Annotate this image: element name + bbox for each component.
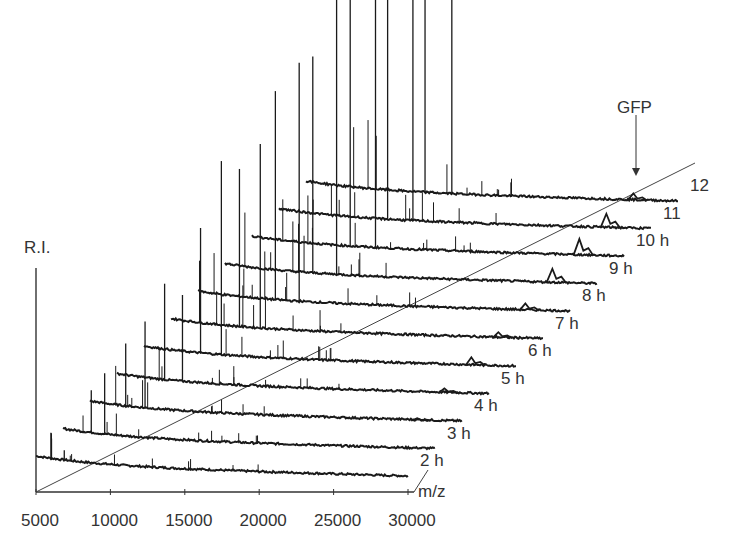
spectrum-trace xyxy=(117,373,489,395)
spectrum-traces xyxy=(36,0,678,477)
x-tick-label: 25000 xyxy=(314,511,361,531)
x-tick-label: 20000 xyxy=(240,511,287,531)
x-axis-label: m/z xyxy=(418,482,445,502)
spectrum-trace xyxy=(171,318,543,339)
series-label: 11 xyxy=(663,204,681,224)
series-label: 3 h xyxy=(447,424,471,444)
x-tick-label: 30000 xyxy=(388,511,435,531)
spectrum-trace xyxy=(63,428,435,449)
spectrum-trace xyxy=(279,208,651,229)
series-label: 5 h xyxy=(501,369,525,389)
x-tick-label: 15000 xyxy=(165,511,212,531)
series-label: 10 h xyxy=(636,231,669,251)
spectrum-trace xyxy=(36,456,408,477)
series-label: 9 h xyxy=(609,259,633,279)
spectrum-trace xyxy=(306,181,678,202)
series-label: 2 h xyxy=(420,451,444,471)
gfp-annotation: GFP xyxy=(617,98,652,118)
gfp-arrow-icon xyxy=(632,115,640,176)
series-label: 4 h xyxy=(474,396,498,416)
spectrum-trace xyxy=(225,263,597,284)
x-tick-label: 5000 xyxy=(21,511,59,531)
series-label: 7 h xyxy=(555,314,579,334)
axes xyxy=(36,163,695,495)
series-label: 6 h xyxy=(528,341,552,361)
x-tick-label: 10000 xyxy=(91,511,138,531)
series-label: 12 xyxy=(690,176,709,196)
y-axis-label: R.I. xyxy=(24,238,50,258)
spectrum-trace xyxy=(90,400,462,421)
series-label: 8 h xyxy=(582,286,606,306)
depth-axis-line xyxy=(36,163,695,492)
